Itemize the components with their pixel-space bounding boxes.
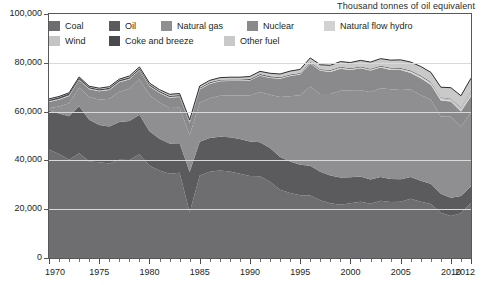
legend-item-coal[interactable]: Coal (49, 18, 84, 33)
gridline (49, 160, 471, 161)
chart-root: Thousand tonnes of oil equivalent 020,00… (0, 0, 481, 285)
x-tick-major (49, 259, 50, 264)
x-tick-minor (310, 259, 311, 262)
legend-swatch-icon (161, 21, 172, 31)
x-tick-minor (220, 259, 221, 262)
x-tick-major (471, 259, 472, 264)
x-tick-minor (340, 259, 341, 262)
y-tick-label: 0 (37, 253, 42, 262)
legend-label: Coke and breeze (125, 36, 194, 46)
legend-label: Nuclear (263, 21, 294, 31)
legend-label: Wind (65, 36, 86, 46)
x-tick-minor (461, 259, 462, 262)
x-tick-minor (411, 259, 412, 262)
x-tick-major (350, 259, 351, 264)
x-tick-minor (129, 259, 130, 262)
x-tick-minor (79, 259, 80, 262)
y-tick-label: 80,000 (14, 58, 42, 67)
legend-item-other-fuel[interactable]: Other fuel (224, 33, 280, 48)
x-tick-label: 1980 (139, 267, 159, 277)
legend-item-wind[interactable]: Wind (49, 33, 86, 48)
legend-swatch-icon (324, 21, 335, 31)
x-tick-minor (320, 259, 321, 262)
x-tick-minor (371, 259, 372, 262)
x-tick-minor (240, 259, 241, 262)
x-tick-major (300, 259, 301, 264)
gridline (49, 209, 471, 210)
x-tick-major (401, 259, 402, 264)
x-tick-label: 1975 (89, 267, 109, 277)
y-axis: 020,00040,00060,00080,000100,000 (0, 0, 48, 285)
x-tick-minor (260, 259, 261, 262)
x-tick-minor (160, 259, 161, 262)
legend-label: Natural gas (177, 21, 223, 31)
x-tick-label: 1970 (45, 267, 65, 277)
x-tick-minor (230, 259, 231, 262)
x-tick-minor (290, 259, 291, 262)
x-tick-minor (441, 259, 442, 262)
x-tick-label: 2012 (455, 267, 475, 277)
x-tick-major (451, 259, 452, 264)
y-tick-label: 60,000 (14, 107, 42, 116)
x-tick-minor (391, 259, 392, 262)
chart-legend: CoalOilNatural gasNuclearNatural flow hy… (49, 14, 471, 51)
legend-row: WindCoke and breezeOther fuel (49, 33, 471, 48)
legend-label: Coal (65, 21, 84, 31)
x-tick-label: 2000 (340, 267, 360, 277)
legend-swatch-icon (109, 21, 120, 31)
x-tick-minor (109, 259, 110, 262)
x-tick-minor (139, 259, 140, 262)
legend-swatch-icon (49, 36, 60, 46)
legend-label: Natural flow hydro (340, 21, 413, 31)
x-tick-major (250, 259, 251, 264)
y-tick-label: 100,000 (9, 9, 42, 18)
y-tick-label: 40,000 (14, 155, 42, 164)
legend-item-natural-flow-hydro[interactable]: Natural flow hydro (324, 18, 413, 33)
x-tick-label: 1985 (190, 267, 210, 277)
legend-swatch-icon (224, 36, 235, 46)
x-tick-minor (69, 259, 70, 262)
x-tick-minor (280, 259, 281, 262)
x-tick-minor (190, 259, 191, 262)
x-tick-major (149, 259, 150, 264)
x-tick-minor (59, 259, 60, 262)
legend-swatch-icon (109, 36, 120, 46)
legend-label: Oil (125, 21, 136, 31)
legend-label: Other fuel (240, 36, 280, 46)
legend-row: CoalOilNatural gasNuclearNatural flow hy… (49, 18, 471, 33)
x-tick-minor (360, 259, 361, 262)
x-tick-minor (210, 259, 211, 262)
x-tick-major (200, 259, 201, 264)
x-tick-minor (330, 259, 331, 262)
x-tick-minor (180, 259, 181, 262)
legend-item-nuclear[interactable]: Nuclear (247, 18, 294, 33)
x-tick-minor (381, 259, 382, 262)
x-tick-minor (431, 259, 432, 262)
unit-title: Thousand tonnes of oil equivalent (337, 1, 475, 11)
gridline (49, 63, 471, 64)
legend-item-natural-gas[interactable]: Natural gas (161, 18, 223, 33)
gridline (49, 112, 471, 113)
legend-swatch-icon (247, 21, 258, 31)
x-axis: 1970197519801985199019952000200520102012 (48, 259, 472, 285)
x-tick-minor (170, 259, 171, 262)
x-tick-major (99, 259, 100, 264)
y-tick-label: 20,000 (14, 204, 42, 213)
legend-item-oil[interactable]: Oil (109, 18, 136, 33)
x-tick-minor (421, 259, 422, 262)
x-tick-minor (89, 259, 90, 262)
legend-item-coke-and-breeze[interactable]: Coke and breeze (109, 33, 194, 48)
x-tick-label: 1995 (290, 267, 310, 277)
x-tick-minor (270, 259, 271, 262)
legend-swatch-icon (49, 21, 60, 31)
x-tick-minor (119, 259, 120, 262)
x-tick-label: 1990 (240, 267, 260, 277)
x-tick-label: 2005 (391, 267, 411, 277)
